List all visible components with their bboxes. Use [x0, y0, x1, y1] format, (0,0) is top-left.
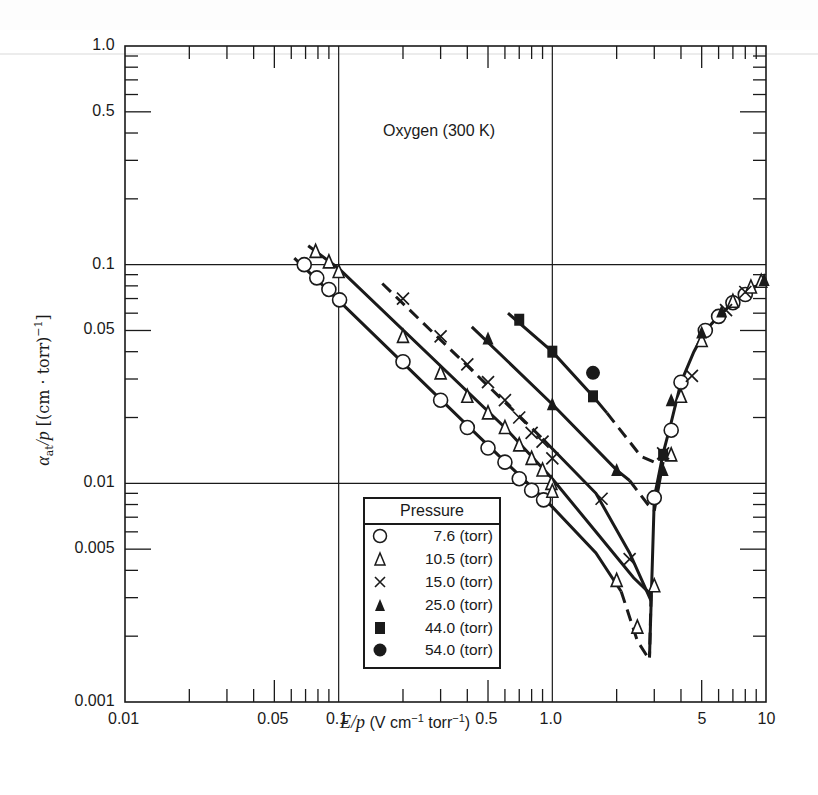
marker-open-circle	[525, 483, 539, 497]
y-tick-label: 0.01	[83, 473, 114, 491]
marker-open-triangle	[397, 329, 408, 342]
marker-open-circle	[396, 355, 410, 369]
y-tick-label: 0.1	[92, 255, 114, 273]
marker-filled-square	[588, 390, 598, 402]
y-tick-label: 0.05	[83, 320, 114, 338]
marker-x	[499, 394, 511, 406]
marker-open-circle	[664, 423, 678, 437]
marker-filled-square	[658, 449, 668, 461]
curve-44.0-dashed	[607, 413, 654, 462]
marker-open-circle	[297, 258, 311, 272]
curve-7.6-dashed	[621, 592, 648, 658]
marker-open-circle	[512, 472, 526, 486]
y-tick-label: 0.5	[92, 102, 114, 120]
legend-item: 7.6 (torr)	[365, 525, 499, 548]
filled-circle-icon	[365, 642, 395, 658]
marker-open-circle	[498, 455, 512, 469]
marker-open-circle	[322, 282, 336, 296]
marker-x	[513, 412, 525, 424]
marker-x	[461, 358, 473, 370]
marker-open-triangle	[632, 620, 643, 633]
x-tick-label: 5	[697, 710, 706, 728]
legend-title: Pressure	[365, 499, 499, 525]
marker-filled-square	[514, 314, 524, 326]
x-tick-label: 0.1	[326, 710, 348, 728]
y-axis-label: αat/p [(cm · torr)−1]	[32, 314, 56, 465]
marker-open-circle	[674, 375, 688, 389]
marker-open-circle	[434, 393, 448, 407]
chart-plot-area	[0, 0, 818, 795]
y-tick-label: 0.005	[75, 539, 115, 557]
x-mark-icon	[365, 574, 395, 590]
filled-triangle-icon	[365, 597, 395, 613]
x-axis-label: E/p (V cm−1 torr−1)	[340, 712, 470, 733]
legend: Pressure 7.6 (torr) 10.5 (torr) 15.0 (to…	[363, 497, 501, 669]
marker-open-triangle	[310, 244, 321, 257]
legend-item: 25.0 (torr)	[365, 593, 499, 616]
curve-15.0	[543, 439, 652, 601]
x-tick-label: 0.05	[257, 710, 288, 728]
x-tick-label: 0.01	[108, 710, 139, 728]
y-tick-label: 0.001	[75, 692, 115, 710]
filled-square-icon	[365, 620, 395, 636]
legend-item: 15.0 (torr)	[365, 571, 499, 594]
open-triangle-icon	[365, 551, 395, 567]
open-circle-icon	[365, 528, 395, 544]
marker-x	[686, 370, 698, 382]
legend-item: 10.5 (torr)	[365, 548, 499, 571]
marker-open-circle	[481, 441, 495, 455]
marker-open-circle	[310, 271, 324, 285]
y-tick-label: 1.0	[92, 36, 114, 54]
x-tick-label: 1.0	[540, 710, 562, 728]
legend-item: 44.0 (torr)	[365, 616, 499, 639]
marker-open-circle	[333, 293, 347, 307]
marker-open-circle	[647, 491, 661, 505]
x-tick-label: 0.5	[475, 710, 497, 728]
marker-filled-triangle	[666, 393, 677, 406]
x-tick-label: 10	[758, 710, 776, 728]
legend-item: 54.0 (torr)	[365, 639, 499, 662]
marker-filled-circle	[586, 366, 600, 380]
chart-title: Oxygen (300 K)	[383, 122, 495, 140]
marker-open-circle	[460, 421, 474, 435]
marker-filled-square	[547, 346, 557, 358]
